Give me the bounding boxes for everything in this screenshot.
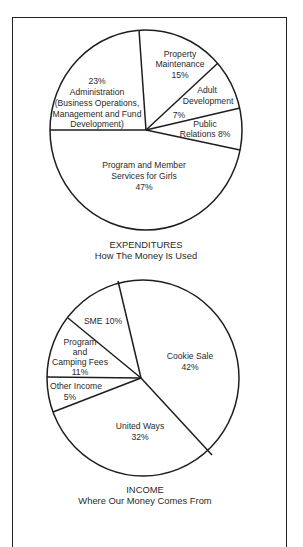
slice-value-other: 5% <box>64 392 77 402</box>
chart-subtitle: How The Money Is Used <box>95 250 197 261</box>
income-labels: SME 10% Program and Camping Fees 11% Oth… <box>50 316 213 506</box>
chart-title: EXPENDITURES <box>110 239 183 250</box>
slice-divider <box>118 281 141 378</box>
slice-label-sme: SME 10% <box>84 316 123 326</box>
income-pie <box>47 280 239 476</box>
slice-label-admin: Administration <box>70 87 125 97</box>
slice-label-united: United Ways <box>116 421 164 431</box>
slice-label-program: Services for Girls <box>111 171 176 181</box>
slice-value-fees: 11% <box>72 367 89 377</box>
slice-label-property: Maintenance <box>155 59 204 69</box>
slice-label-public: Public <box>193 119 217 129</box>
slice-value-admin: 23% <box>88 76 106 86</box>
slice-divider <box>141 378 212 455</box>
slice-label-admin: Management and Fund <box>53 109 142 119</box>
slice-divider <box>47 377 141 378</box>
slice-value-property: 15% <box>171 70 189 80</box>
slice-label-program: Program and Member <box>102 160 186 170</box>
slice-label-adult: Development <box>183 96 234 106</box>
slice-label-admin: Development) <box>70 119 124 129</box>
chart-title: INCOME <box>126 484 164 495</box>
slice-label-fees: Program <box>64 337 97 347</box>
slice-label-public: Relations 8% <box>180 129 231 139</box>
slice-value-adult: 7% <box>173 110 186 120</box>
slice-label-fees: Camping Fees <box>52 357 108 367</box>
slice-label-adult: Adult <box>197 85 217 95</box>
slice-value-cookie: 42% <box>181 362 199 372</box>
slice-label-property: Property <box>164 49 197 59</box>
slice-label-admin: (Business Operations, <box>55 98 140 108</box>
slice-value-program: 47% <box>135 182 153 192</box>
slice-value-united: 32% <box>131 432 149 442</box>
chart-subtitle: Where Our Money Comes From <box>78 495 212 506</box>
slice-label-cookie: Cookie Sale <box>167 351 214 361</box>
slice-label-fees: and <box>73 347 88 357</box>
slice-label-other: Other Income <box>50 381 102 391</box>
